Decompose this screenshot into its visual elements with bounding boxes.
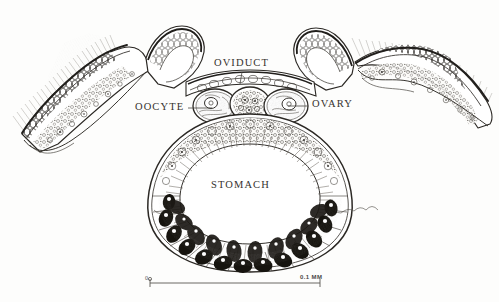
scale-bar	[148, 277, 320, 287]
left-corona-arm	[2, 20, 150, 159]
scale-bar-min-value: 0	[145, 275, 148, 281]
scale-bar-max-value: 0.1 MM	[300, 274, 322, 280]
anatomical-figure: OVIDUCT OOCYTE OVARY STOMACH 0 0.1 MM	[0, 0, 499, 302]
right-corona-arm	[352, 38, 492, 128]
label-ovary: OVARY	[312, 98, 353, 109]
label-oocyte: OOCYTE	[135, 101, 184, 112]
label-stomach: STOMACH	[211, 179, 270, 190]
label-oviduct: OVIDUCT	[214, 57, 269, 68]
body-and-stomach	[148, 112, 378, 273]
illustration-canvas	[0, 0, 499, 302]
